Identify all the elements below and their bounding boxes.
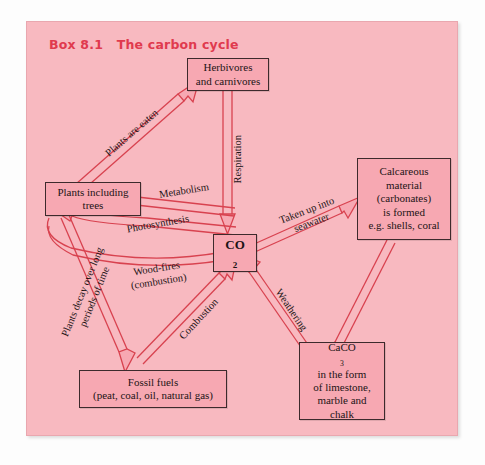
node-calcareous-line4: is formed xyxy=(368,206,439,219)
node-calcareous-line3: (carbonates) xyxy=(368,192,439,205)
node-caco3-line4: marble and xyxy=(313,394,370,407)
node-fossil-fuels[interactable]: Fossil fuels (peat, coal, oil, natural g… xyxy=(79,370,227,408)
node-caco3[interactable]: CaCO3 in the form of limestone, marble a… xyxy=(299,342,385,420)
carbon-cycle-panel: Box 8.1 The carbon cycle .ar{fill:#f7a8b… xyxy=(26,21,458,436)
diagram-canvas: Box 8.1 The carbon cycle .ar{fill:#f7a8b… xyxy=(0,0,485,465)
node-co2-label: CO2 xyxy=(225,237,245,269)
node-fossil-line1: Fossil fuels xyxy=(93,376,213,389)
node-caco3-line2: in the form xyxy=(313,368,370,381)
node-calcareous-line2: material xyxy=(368,179,439,192)
node-calcareous[interactable]: Calcareous material (carbonates) is form… xyxy=(357,158,451,240)
node-plants-line1: Plants including xyxy=(57,186,128,199)
node-calcareous-line5: e.g. shells, coral xyxy=(368,219,439,232)
node-caco3-formula: CaCO3 xyxy=(313,341,370,368)
node-caco3-line3: of limestone, xyxy=(313,381,370,394)
node-caco3-line5: chalk xyxy=(313,408,370,421)
node-fossil-line2: (peat, coal, oil, natural gas) xyxy=(93,389,213,402)
node-herbivores[interactable]: Herbivores and carnivores xyxy=(187,58,269,91)
node-herbivores-line1: Herbivores xyxy=(196,61,260,74)
node-plants[interactable]: Plants including trees xyxy=(45,182,141,216)
node-plants-line2: trees xyxy=(57,199,128,212)
edge-label-respiration: Respiration xyxy=(232,126,244,192)
node-co2[interactable]: CO2 xyxy=(213,234,257,272)
node-herbivores-line2: and carnivores xyxy=(196,75,260,88)
node-calcareous-line1: Calcareous xyxy=(368,165,439,178)
